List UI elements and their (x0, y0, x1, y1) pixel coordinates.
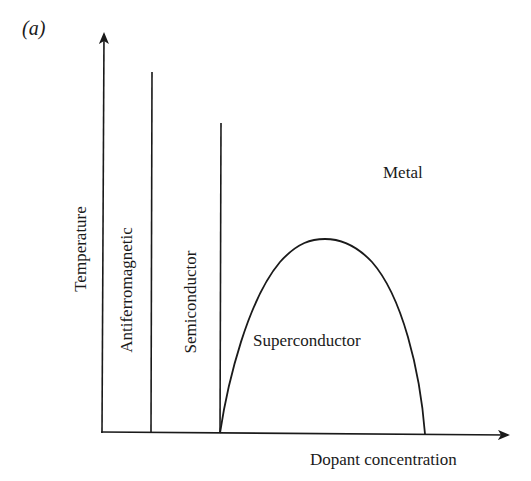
region-label-metal: Metal (383, 164, 423, 181)
x-axis-label: Dopant concentration (310, 451, 457, 468)
panel-label: (a) (22, 18, 45, 38)
y-axis (102, 34, 104, 433)
x-axis (101, 432, 508, 435)
y-axis-label: Temperature (72, 206, 89, 292)
region-label-semiconductor: Semiconductor (182, 251, 199, 354)
region-label-superconductor: Superconductor (253, 332, 361, 349)
region-label-antiferromagnetic: Antiferromagnetic (118, 227, 135, 353)
antiferromagnetic-boundary (151, 72, 152, 433)
semiconductor-boundary (220, 123, 221, 433)
